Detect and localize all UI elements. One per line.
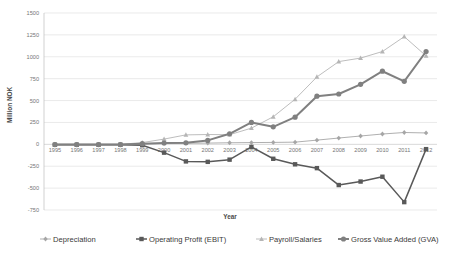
series-4 xyxy=(52,49,428,147)
x-axis-tick-label: 2001 xyxy=(180,147,192,153)
data-series-group xyxy=(52,34,428,204)
x-axis-tick-label: 2011 xyxy=(398,147,410,153)
data-point-marker xyxy=(293,140,297,145)
y-axis-tick-label: -500 xyxy=(28,185,39,191)
data-point-marker xyxy=(341,236,346,241)
data-point-marker xyxy=(424,147,428,151)
data-point-marker xyxy=(96,142,101,147)
data-point-marker xyxy=(52,142,57,147)
data-point-marker xyxy=(140,141,145,146)
data-point-marker xyxy=(423,49,428,54)
data-point-marker xyxy=(314,94,319,99)
data-point-marker xyxy=(402,130,406,135)
legend-item-4[interactable]: Gross Value Added (GVA) xyxy=(338,235,439,244)
data-point-marker xyxy=(380,69,385,74)
data-point-marker xyxy=(118,142,123,147)
data-point-marker xyxy=(358,134,362,139)
series-2 xyxy=(53,143,429,205)
x-axis-tick-label: 1998 xyxy=(114,147,126,153)
data-point-marker xyxy=(162,150,166,154)
data-point-marker xyxy=(43,237,47,242)
data-point-marker xyxy=(271,157,275,161)
y-axis-tick-label: 1500 xyxy=(27,10,39,16)
line-chart: 1500125010007505002500-250-500-750 19951… xyxy=(0,0,449,260)
data-point-marker xyxy=(206,160,210,164)
data-point-marker xyxy=(336,91,341,96)
x-axis-tick-label: 1999 xyxy=(136,147,148,153)
chart-legend: DepreciationOperating Profit (EBIT)Payro… xyxy=(40,235,439,244)
legend-item-label: Gross Value Added (GVA) xyxy=(351,235,439,244)
data-point-marker xyxy=(402,79,407,84)
data-point-marker xyxy=(380,175,384,179)
x-axis-tick-label: 2005 xyxy=(267,147,279,153)
y-axis-tick-label: 250 xyxy=(30,119,39,125)
x-axis-tick-label: 2009 xyxy=(354,147,366,153)
data-point-marker xyxy=(184,159,188,163)
x-axis-tick-label: 1997 xyxy=(92,147,104,153)
data-point-marker xyxy=(337,183,341,187)
x-axis-tick-label: 2008 xyxy=(333,147,345,153)
data-point-marker xyxy=(380,49,385,54)
data-point-marker xyxy=(161,140,166,145)
data-point-marker xyxy=(249,126,254,131)
data-point-marker xyxy=(358,179,362,183)
data-point-marker xyxy=(402,200,406,204)
data-point-marker xyxy=(205,138,210,143)
x-axis-tick-label: 2006 xyxy=(289,147,301,153)
legend-item-2[interactable]: Operating Profit (EBIT) xyxy=(136,235,227,244)
y-axis-tick-label: 1000 xyxy=(27,54,39,60)
x-axis-tick-labels: 1995199619971998199920002001200220032004… xyxy=(49,147,433,153)
x-axis-tick-label: 1995 xyxy=(49,147,61,153)
x-axis-title: Year xyxy=(223,213,237,220)
y-axis-tick-label: 0 xyxy=(36,141,39,147)
y-axis-tick-label: 750 xyxy=(30,76,39,82)
y-axis-tick-label: 1250 xyxy=(27,32,39,38)
series-line xyxy=(55,145,426,202)
data-point-marker xyxy=(249,120,254,125)
data-point-marker xyxy=(424,131,428,136)
y-axis-tick-labels: 1500125010007505002500-250-500-750 xyxy=(27,10,39,213)
x-axis-tick-label: 1996 xyxy=(71,147,83,153)
x-axis-tick-label: 2007 xyxy=(311,147,323,153)
legend-item-1[interactable]: Depreciation xyxy=(40,235,96,244)
x-axis-tick-label: 2003 xyxy=(223,147,235,153)
series-3 xyxy=(53,34,429,146)
legend-item-3[interactable]: Payroll/Salaries xyxy=(256,235,322,244)
y-axis-tick-label: 500 xyxy=(30,98,39,104)
y-axis-title: Million NOK xyxy=(6,87,13,124)
data-point-marker xyxy=(227,157,231,161)
y-axis-tick-label: -750 xyxy=(28,207,39,213)
data-point-marker xyxy=(183,140,188,145)
x-axis-tick-label: 2002 xyxy=(202,147,214,153)
chart-figure: 1500125010007505002500-250-500-750 19951… xyxy=(0,0,449,260)
series-line xyxy=(55,133,426,145)
data-point-marker xyxy=(74,142,79,147)
legend-item-label: Payroll/Salaries xyxy=(269,235,322,244)
data-point-marker xyxy=(271,124,276,129)
data-point-marker xyxy=(337,136,341,141)
data-point-marker xyxy=(358,82,363,87)
legend-item-label: Depreciation xyxy=(53,235,96,244)
data-point-marker xyxy=(249,145,253,149)
x-axis-tick-label: 2010 xyxy=(376,147,388,153)
data-point-marker xyxy=(271,114,276,119)
data-point-marker xyxy=(293,162,297,166)
gridlines xyxy=(44,13,437,210)
legend-item-label: Operating Profit (EBIT) xyxy=(149,235,227,244)
data-point-marker xyxy=(227,131,232,136)
data-point-marker xyxy=(380,132,384,137)
data-point-marker xyxy=(139,237,143,241)
data-point-marker xyxy=(292,115,297,120)
data-point-marker xyxy=(315,74,320,79)
y-axis-tick-label: -250 xyxy=(28,163,39,169)
data-point-marker xyxy=(315,138,319,143)
data-point-marker xyxy=(315,166,319,170)
series-line xyxy=(55,52,426,145)
